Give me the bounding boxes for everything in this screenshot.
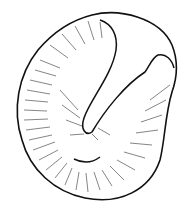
hatching: [24, 21, 170, 192]
seed-illustration: [0, 0, 187, 217]
seed-outline: [17, 13, 176, 200]
seed-drawing: [0, 0, 187, 217]
seed-fold: [83, 20, 174, 133]
seed-arc-mark: [74, 157, 100, 162]
